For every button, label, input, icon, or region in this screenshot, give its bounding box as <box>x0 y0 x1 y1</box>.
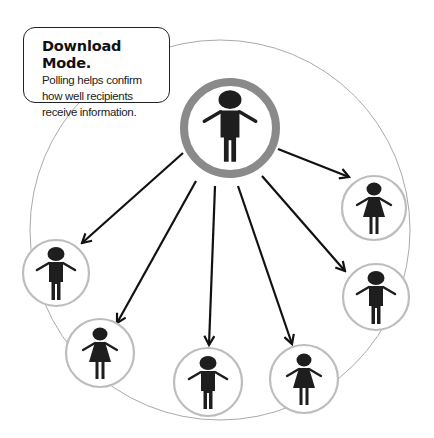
recipient-node-bottom-right <box>270 345 338 413</box>
recipient-node-left <box>23 240 89 306</box>
recipient-node-right-top <box>342 176 406 240</box>
arrow-to-bottom-center <box>209 186 215 345</box>
recipient-node-bottom-center <box>174 348 242 416</box>
callout-title: Download Mode. <box>42 38 161 72</box>
arrows <box>82 149 349 345</box>
arrow-to-right-top <box>278 149 349 177</box>
callout-box: Download Mode. Polling helps confirm how… <box>23 27 170 103</box>
recipient-node-bottom-left <box>66 319 134 387</box>
callout-body: Polling helps confirm how well recipient… <box>42 72 161 120</box>
arrow-to-right <box>262 176 345 271</box>
center-node <box>184 82 276 174</box>
arrow-to-bottom-right <box>238 186 292 344</box>
recipient-node-right <box>343 264 409 330</box>
